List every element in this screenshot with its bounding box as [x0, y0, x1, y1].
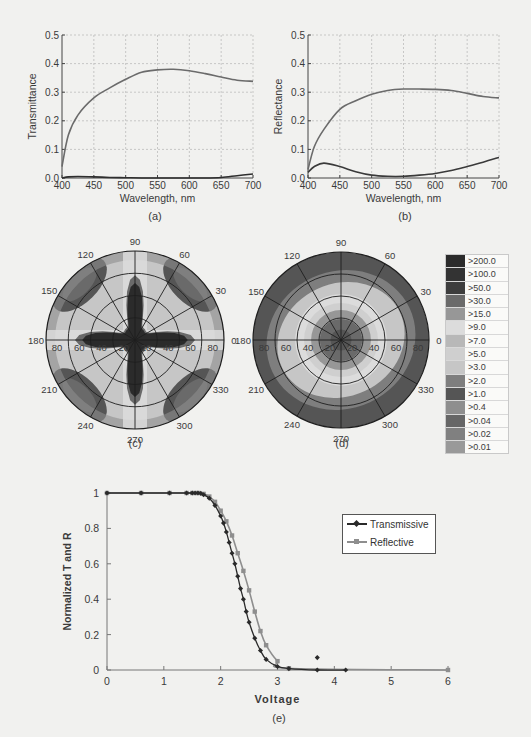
svg-text:20: 20 — [325, 342, 336, 353]
legend-swatch — [446, 295, 465, 307]
svg-text:0.0: 0.0 — [291, 173, 305, 184]
contrast-legend: >200.0>100.0>50.0>30.0>15.0>9.0>7.0>5.0>… — [445, 254, 509, 454]
svg-text:3: 3 — [275, 675, 281, 687]
legend-level: >200.0 — [446, 255, 508, 268]
legend-level: >9.0 — [446, 321, 508, 334]
svg-text:60: 60 — [74, 342, 85, 353]
legend-item-reflective: Reflective — [343, 533, 435, 551]
legend-swatch — [446, 401, 465, 413]
svg-text:0.4: 0.4 — [84, 593, 99, 605]
svg-text:450: 450 — [331, 180, 348, 191]
svg-text:150: 150 — [248, 286, 264, 297]
svg-text:0.0: 0.0 — [45, 173, 59, 184]
svg-text:80: 80 — [52, 342, 63, 353]
svg-text:Voltage: Voltage — [255, 693, 301, 705]
legend-level: >100.0 — [446, 268, 508, 281]
svg-text:300: 300 — [382, 419, 398, 430]
legend-level: >30.0 — [446, 295, 508, 308]
chart-a: 4004505005506006507000.00.10.20.30.40.5W… — [26, 30, 262, 205]
svg-text:90: 90 — [336, 237, 347, 248]
caption-d: (d) — [327, 437, 357, 449]
caption-c: (c) — [120, 437, 150, 449]
svg-text:0.2: 0.2 — [291, 115, 305, 126]
svg-text:40: 40 — [163, 342, 174, 353]
svg-text:80: 80 — [208, 342, 219, 353]
legend-level-label: >5.0 — [465, 348, 508, 360]
svg-text:40: 40 — [303, 342, 314, 353]
chart-b: 4004505005506006507000.00.10.20.30.40.5W… — [272, 30, 508, 205]
legend-level: >0.01 — [446, 441, 508, 453]
caption-b: (b) — [390, 210, 420, 222]
legend-level-label: >2.0 — [465, 375, 508, 387]
legend-level: >2.0 — [446, 375, 508, 388]
legend-swatch — [446, 388, 465, 400]
caption-a: (a) — [140, 210, 170, 222]
svg-text:30: 30 — [421, 286, 432, 297]
svg-text:0: 0 — [104, 675, 110, 687]
svg-text:180: 180 — [28, 335, 44, 346]
svg-text:330: 330 — [213, 384, 229, 395]
svg-text:80: 80 — [259, 342, 270, 353]
legend-level-label: >1.0 — [465, 388, 508, 400]
svg-text:20: 20 — [119, 342, 130, 353]
legend-level-label: >0.02 — [465, 428, 508, 440]
svg-text:0: 0 — [93, 664, 99, 676]
svg-text:6: 6 — [445, 675, 451, 687]
legend-level: >0.02 — [446, 428, 508, 441]
legend-swatch — [446, 348, 465, 360]
svg-text:240: 240 — [284, 419, 300, 430]
reflective-line-icon — [347, 541, 367, 543]
svg-text:210: 210 — [41, 384, 57, 395]
svg-text:1: 1 — [93, 487, 99, 499]
legend-level-label: >0.4 — [465, 401, 508, 413]
legend-label-transmissive: Transmissive — [370, 519, 429, 530]
legend-level-label: >9.0 — [465, 321, 508, 333]
svg-text:40: 40 — [369, 342, 380, 353]
legend-level: >7.0 — [446, 335, 508, 348]
svg-text:500: 500 — [363, 180, 380, 191]
chart-e-legend: Transmissive Reflective — [342, 514, 436, 554]
svg-text:240: 240 — [78, 420, 94, 431]
svg-text:150: 150 — [41, 285, 57, 296]
legend-level: >1.0 — [446, 388, 508, 401]
legend-level-label: >7.0 — [465, 335, 508, 347]
svg-text:120: 120 — [284, 250, 300, 261]
legend-swatch — [446, 268, 465, 280]
svg-text:1: 1 — [161, 675, 167, 687]
legend-level-label: >0.04 — [465, 415, 508, 427]
legend-level: >3.0 — [446, 361, 508, 374]
svg-text:0.3: 0.3 — [291, 87, 305, 98]
legend-label-reflective: Reflective — [370, 537, 414, 548]
svg-text:650: 650 — [213, 180, 230, 191]
svg-text:550: 550 — [395, 180, 412, 191]
svg-text:0: 0 — [436, 335, 441, 346]
legend-swatch — [446, 441, 465, 453]
legend-swatch — [446, 361, 465, 373]
svg-text:650: 650 — [459, 180, 476, 191]
legend-swatch — [446, 415, 465, 427]
svg-text:700: 700 — [245, 180, 262, 191]
legend-level-label: >100.0 — [465, 268, 508, 280]
legend-level-label: >3.0 — [465, 361, 508, 373]
svg-text:210: 210 — [248, 384, 264, 395]
svg-text:300: 300 — [177, 420, 193, 431]
svg-text:4: 4 — [331, 675, 337, 687]
svg-text:90: 90 — [130, 236, 141, 247]
legend-swatch — [446, 255, 465, 267]
svg-text:30: 30 — [215, 285, 226, 296]
svg-text:40: 40 — [96, 342, 107, 353]
svg-text:600: 600 — [427, 180, 444, 191]
svg-text:700: 700 — [491, 180, 508, 191]
legend-level-label: >15.0 — [465, 308, 508, 320]
svg-text:20: 20 — [347, 342, 358, 353]
legend-swatch — [446, 428, 465, 440]
svg-text:450: 450 — [85, 180, 102, 191]
svg-text:5: 5 — [388, 675, 394, 687]
legend-swatch — [446, 375, 465, 387]
legend-level: >5.0 — [446, 348, 508, 361]
legend-swatch — [446, 335, 465, 347]
svg-text:20: 20 — [141, 342, 152, 353]
svg-text:2: 2 — [218, 675, 224, 687]
legend-swatch — [446, 308, 465, 320]
svg-text:0.1: 0.1 — [45, 144, 59, 155]
